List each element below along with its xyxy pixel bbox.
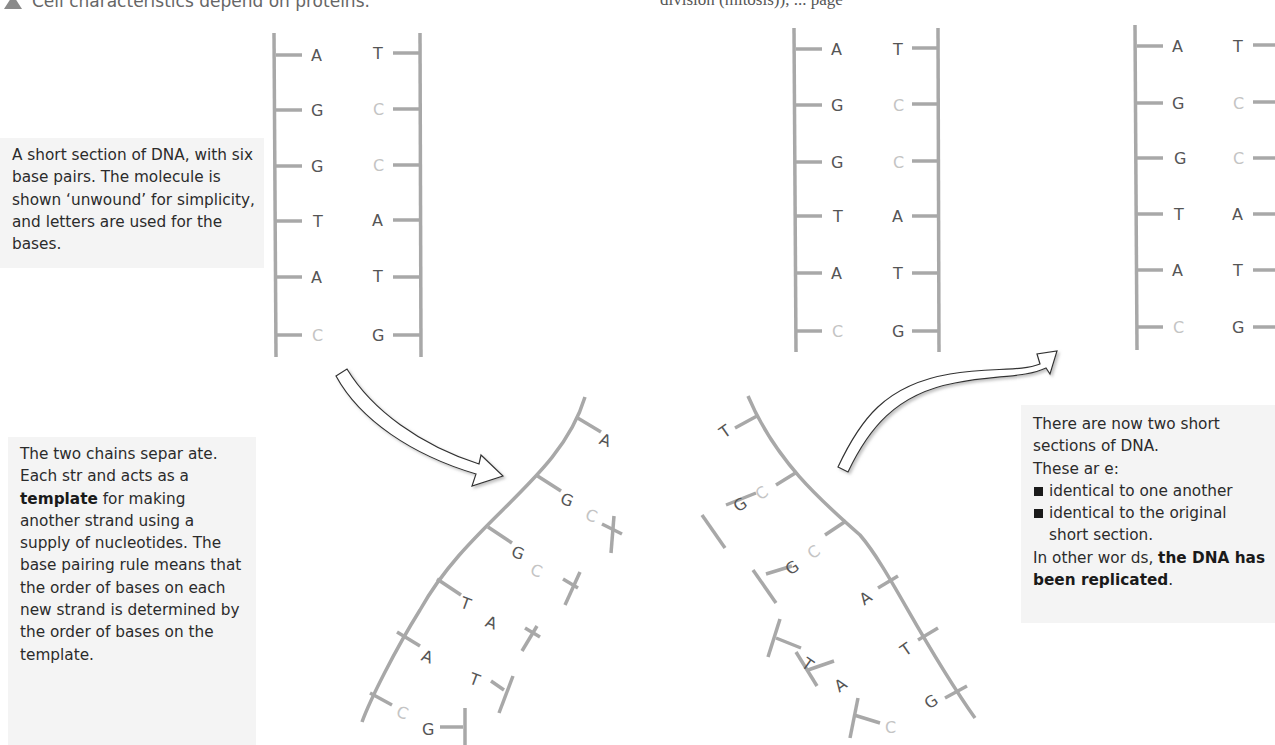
svg-text:C: C [394,702,411,724]
svg-text:T: T [892,40,903,59]
svg-text:G: G [558,489,576,511]
svg-text:C: C [312,326,323,345]
original-dna-ladder [274,33,421,357]
svg-text:C: C [893,153,904,172]
svg-text:G: G [892,322,904,341]
svg-text:C: C [1173,318,1184,337]
svg-text:G: G [509,542,527,564]
svg-text:A: A [311,46,322,65]
separating-strand-right-bases: T G C G C A T T A G C [715,421,942,737]
svg-text:C: C [804,541,824,563]
svg-text:A: A [831,40,842,59]
svg-text:T: T [372,44,383,63]
svg-text:G: G [831,96,843,115]
svg-text:C: C [373,156,384,175]
svg-text:A: A [831,264,842,283]
arrow-to-separation-icon [336,369,503,486]
svg-text:A: A [1232,205,1243,224]
svg-text:G: G [1232,318,1244,337]
svg-text:T: T [1232,37,1243,56]
svg-text:C: C [373,100,384,119]
svg-text:A: A [892,207,903,226]
svg-text:C: C [885,718,896,737]
svg-text:C: C [528,560,545,582]
original-dna-bases: AT GC GC TA AT CG [311,44,384,345]
svg-text:G: G [782,556,803,579]
separating-strand-left [362,397,622,745]
svg-text:C: C [752,482,772,504]
svg-text:A: A [419,646,436,668]
svg-text:A: A [483,612,500,634]
copy-two-dna-bases: AT GC GC TA AT CG [1172,37,1244,337]
svg-text:T: T [312,212,323,231]
svg-text:T: T [1173,205,1184,224]
svg-text:T: T [1232,261,1243,280]
svg-text:G: G [831,153,843,172]
copy-one-dna-bases: AT GC GC TA AT CG [831,40,904,341]
svg-text:A: A [311,268,322,287]
svg-text:C: C [893,96,904,115]
svg-text:A: A [372,211,383,230]
svg-text:C: C [1233,94,1244,113]
svg-text:G: G [422,720,434,739]
svg-text:T: T [896,639,916,661]
svg-text:C: C [583,505,600,527]
svg-text:A: A [1172,37,1183,56]
svg-text:T: T [892,264,903,283]
svg-text:G: G [1174,149,1186,168]
copy-one-dna-ladder [794,28,939,352]
dna-replication-diagram: AT GC GC TA AT CG AT GC GC TA AT CG AT G… [0,0,1275,745]
svg-text:A: A [831,674,851,696]
svg-text:T: T [715,421,735,443]
svg-text:G: G [311,157,323,176]
separating-strand-left-bases: A G C G C T A A T C G [394,429,614,739]
svg-text:T: T [832,207,843,226]
svg-text:C: C [1233,149,1244,168]
svg-text:G: G [311,101,323,120]
svg-text:T: T [466,668,483,690]
svg-text:A: A [856,587,876,609]
svg-text:T: T [372,267,383,286]
svg-text:A: A [1172,261,1183,280]
svg-text:G: G [921,690,942,713]
svg-text:G: G [1172,94,1184,113]
copy-two-dna-ladder [1135,25,1275,350]
arrow-to-replicated-icon [838,351,1057,472]
svg-text:G: G [372,326,384,345]
svg-text:C: C [832,322,843,341]
